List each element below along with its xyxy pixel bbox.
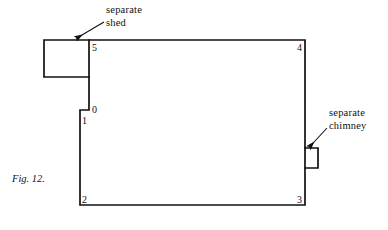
figure-12-diagram: separate shed separate chimney 0 1 2 3 4… xyxy=(0,0,388,230)
separate-chimney-label: separate chimney xyxy=(329,107,367,132)
separate-shed-label: separate shed xyxy=(106,4,142,29)
separate-shed-label-line1: separate xyxy=(106,4,142,17)
separate-shed-outline xyxy=(44,40,89,77)
vertex-label-0: 0 xyxy=(92,104,97,115)
vertex-label-1: 1 xyxy=(82,115,87,126)
main-building-outline xyxy=(80,40,305,205)
vertex-label-2: 2 xyxy=(82,194,87,205)
figure-caption: Fig. 12. xyxy=(12,173,45,184)
separate-shed-label-line2: shed xyxy=(106,17,142,30)
separate-chimney-outline xyxy=(305,148,318,168)
separate-shed-arrow xyxy=(76,22,104,39)
separate-chimney-label-line2: chimney xyxy=(329,120,367,133)
separate-chimney-arrow xyxy=(309,128,327,148)
separate-chimney-label-line1: separate xyxy=(329,107,367,120)
vertex-label-3: 3 xyxy=(297,194,302,205)
vertex-label-5: 5 xyxy=(92,42,97,53)
vertex-label-4: 4 xyxy=(297,42,302,53)
